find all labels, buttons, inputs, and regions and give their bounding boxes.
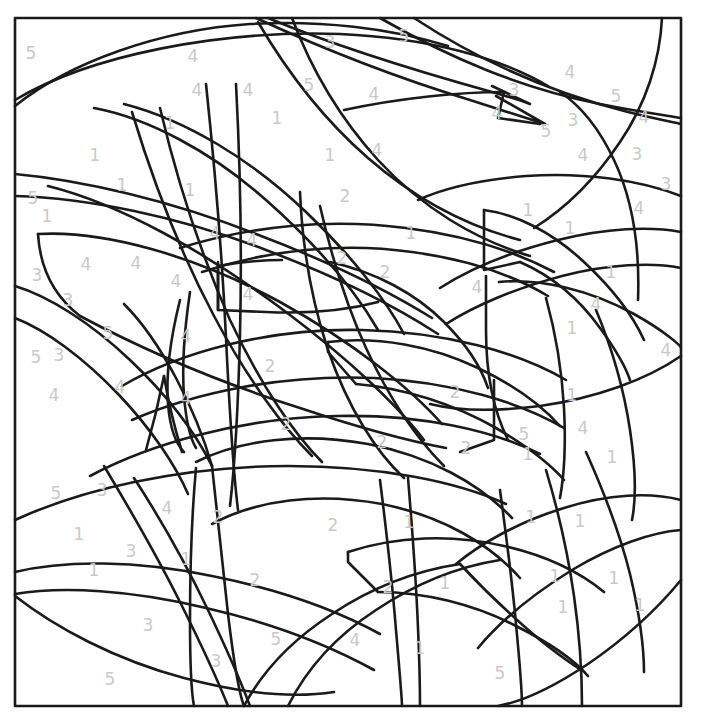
coloring-artwork [0, 0, 702, 726]
coloring-page: 5435435445445341114431115231411441244134… [0, 0, 702, 726]
